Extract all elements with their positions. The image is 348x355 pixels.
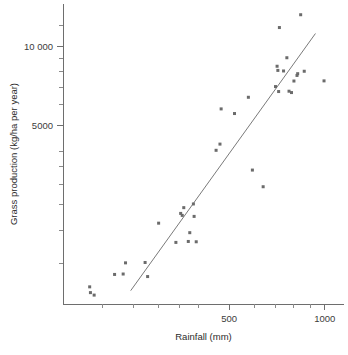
- data-point: [276, 69, 279, 72]
- y-axis-tick-label: 10 000: [24, 41, 53, 52]
- data-point: [251, 169, 254, 172]
- data-point: [182, 206, 185, 209]
- data-point: [277, 90, 280, 93]
- data-point: [122, 273, 125, 276]
- data-point: [218, 143, 221, 146]
- data-point: [144, 261, 147, 264]
- data-point: [195, 240, 198, 243]
- data-point: [233, 112, 236, 115]
- data-point: [285, 56, 288, 59]
- regression-line: [131, 34, 316, 291]
- data-point: [89, 291, 92, 294]
- x-axis-tick-label: 1000: [314, 313, 335, 324]
- chart-figure: 500010 0005001000Rainfall (mm)Grass prod…: [0, 0, 348, 355]
- data-point: [282, 69, 285, 72]
- data-point: [247, 96, 250, 99]
- data-point: [292, 80, 295, 83]
- data-point: [276, 65, 279, 68]
- y-axis-tick-label: 5000: [32, 120, 53, 131]
- data-point: [181, 214, 184, 217]
- data-point: [290, 91, 293, 94]
- data-point: [124, 261, 127, 264]
- x-axis-title: Rainfall (mm): [175, 331, 231, 342]
- data-point: [93, 294, 96, 297]
- data-point: [113, 273, 116, 276]
- data-point: [278, 26, 281, 29]
- data-point: [296, 72, 299, 75]
- data-point: [215, 149, 218, 152]
- x-axis-tick-label: 500: [221, 313, 237, 324]
- data-point: [193, 215, 196, 218]
- data-point: [188, 231, 191, 234]
- data-point: [220, 107, 223, 110]
- scatter-plot: 500010 0005001000Rainfall (mm)Grass prod…: [0, 0, 348, 355]
- y-axis-title: Grass production (kg/ha per year): [8, 83, 19, 225]
- data-point: [88, 285, 91, 288]
- data-point: [146, 275, 149, 278]
- data-point: [299, 13, 302, 16]
- data-point: [303, 70, 306, 73]
- data-point: [192, 202, 195, 205]
- data-point: [157, 222, 160, 225]
- data-point: [323, 79, 326, 82]
- data-point: [274, 85, 277, 88]
- data-point: [262, 185, 265, 188]
- data-point: [187, 240, 190, 243]
- data-point: [174, 241, 177, 244]
